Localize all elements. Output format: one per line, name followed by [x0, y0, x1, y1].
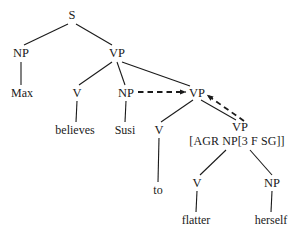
- edge-vp-embedded-to-v-to: [161, 100, 193, 122]
- edge-s-to-vp-matrix: [76, 24, 112, 45]
- edge-s-to-np-subject: [24, 24, 68, 45]
- leaf-believes: believes: [55, 124, 94, 137]
- tree-edges-svg: [0, 0, 306, 240]
- node-s: S: [69, 9, 76, 22]
- edge-vp-matrix-to-vp-embedded: [122, 62, 190, 86]
- syntax-tree-figure: S NP Max VP V believes NP Susi VP V to V…: [0, 0, 306, 240]
- leaf-susi: Susi: [115, 124, 136, 137]
- node-vp-embedded: VP: [189, 87, 205, 100]
- node-v-to: V: [154, 124, 163, 137]
- node-vp-inner: VP: [232, 121, 248, 134]
- node-np-object: NP: [118, 87, 134, 100]
- node-np-reflexive: NP: [264, 177, 280, 190]
- node-v-matrix: V: [72, 87, 81, 100]
- edge-np-reflexive-to-herself: [271, 191, 272, 212]
- edge-vp-inner-to-np-reflexive: [250, 150, 272, 175]
- edge-v-to-believes: [76, 101, 77, 122]
- leaf-flatter: flatter: [182, 214, 211, 227]
- edge-vp-inner-to-v-flatter: [200, 150, 226, 175]
- leaf-max: Max: [11, 87, 33, 100]
- edge-v-to-to: [158, 138, 159, 182]
- leaf-to: to: [153, 184, 162, 197]
- edge-np-object-to-susi: [125, 101, 126, 122]
- dashed-arrow-vp-inner-to-vp-embedded: [207, 95, 244, 121]
- node-np-subject: NP: [13, 47, 29, 60]
- edge-vp-matrix-to-v: [79, 62, 112, 85]
- edge-vp-matrix-to-np-object: [117, 62, 125, 85]
- node-agr-features: [AGR NP[3 F SG]]: [189, 135, 284, 148]
- leaf-herself: herself: [255, 214, 288, 227]
- node-v-flatter: V: [192, 177, 201, 190]
- node-vp-matrix: VP: [109, 47, 125, 60]
- edge-v-flatter-to-flatter: [196, 191, 197, 212]
